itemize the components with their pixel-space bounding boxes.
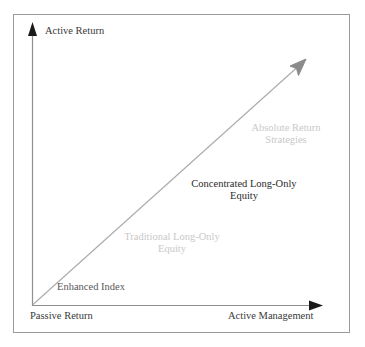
label-concentrated-long-only-equity: Concentrated Long-Only Equity [180, 178, 308, 203]
label-line-1: Concentrated Long-Only [180, 178, 308, 190]
y-axis-arrowhead [28, 22, 37, 36]
label-absolute-return-strategies: Absolute Return Strategies [236, 122, 336, 147]
label-line-2: Equity [180, 190, 308, 202]
label-line-2: Strategies [236, 134, 336, 146]
axes-and-arrows [0, 0, 365, 347]
y-axis-label: Active Return [45, 25, 104, 37]
label-line-1: Absolute Return [236, 122, 336, 134]
label-traditional-long-only-equity: Traditional Long-Only Equity [113, 231, 231, 256]
label-line-2: Equity [113, 243, 231, 255]
diagram-canvas: Active Return Passive Return Active Mana… [0, 0, 365, 347]
label-enhanced-index: Enhanced Index [57, 281, 125, 293]
diagonal-arrowhead [290, 59, 306, 76]
label-line-1: Traditional Long-Only [113, 231, 231, 243]
origin-label-passive-return: Passive Return [30, 310, 93, 322]
x-axis-arrowhead [309, 301, 323, 311]
x-axis-label: Active Management [228, 310, 313, 322]
